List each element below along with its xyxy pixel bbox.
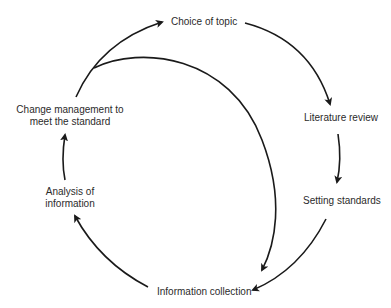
audit-cycle-diagram — [0, 0, 391, 308]
node-change-management: Change management to meet the standard — [10, 104, 130, 128]
node-choice-of-topic: Choice of topic — [171, 16, 237, 28]
node-setting-standards: Setting standards — [303, 195, 381, 207]
arrow-literature-to-setting — [337, 134, 340, 182]
arrow-change-to-collection — [94, 57, 276, 270]
node-literature-review: Literature review — [304, 112, 378, 124]
arrow-setting-to-collection — [253, 219, 326, 290]
node-change-line2: meet the standard — [10, 116, 130, 128]
node-analysis-line1: Analysis of — [30, 186, 110, 198]
node-analysis-of-information: Analysis of information — [30, 186, 110, 210]
arrow-collection-to-analysis — [75, 216, 148, 287]
arrow-analysis-to-change — [63, 135, 65, 180]
arrow-choice-to-literature — [245, 23, 330, 104]
node-information-collection: Information collection — [157, 286, 252, 298]
node-analysis-line2: information — [30, 198, 110, 210]
node-change-line1: Change management to — [10, 104, 130, 116]
